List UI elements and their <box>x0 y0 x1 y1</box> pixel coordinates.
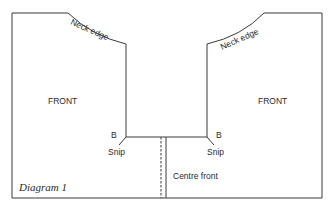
left-snip-line <box>119 137 126 145</box>
left-point-b: B <box>111 130 117 140</box>
left-neck-label: Neck edge <box>69 17 110 43</box>
left-front-label: FRONT <box>48 96 77 106</box>
diagram-caption: Diagram 1 <box>18 181 67 193</box>
left-panel-outline <box>12 13 164 198</box>
centre-front-label: Centre front <box>173 171 219 181</box>
right-snip-label: Snip <box>207 147 224 157</box>
right-point-b: B <box>216 130 222 140</box>
right-snip-line <box>207 137 214 145</box>
right-neck-label: Neck edge <box>219 26 260 52</box>
left-snip-label: Snip <box>108 147 125 157</box>
pattern-diagram: Neck edge Neck edge FRONT FRONT B Snip B… <box>0 0 332 207</box>
right-front-label: FRONT <box>258 96 287 106</box>
